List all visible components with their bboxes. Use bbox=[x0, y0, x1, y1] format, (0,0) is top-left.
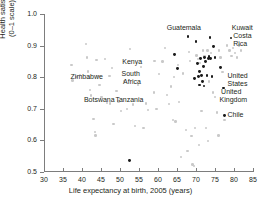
data-point bbox=[132, 103, 134, 105]
y-axis-title-line1: Health satisfaction bbox=[0, 0, 7, 56]
x-tick-mark bbox=[139, 168, 140, 172]
y-tick-label: 0.7 bbox=[19, 105, 37, 113]
data-point bbox=[195, 54, 197, 56]
x-tick-mark bbox=[234, 168, 235, 172]
country-label-rica: Rica bbox=[233, 40, 247, 48]
x-tick-mark bbox=[253, 168, 254, 172]
y-axis-title: Health satisfaction (0–1 scale), 2006 bbox=[0, 0, 16, 56]
country-label-united: United bbox=[228, 72, 248, 80]
y-tick-mark bbox=[40, 14, 44, 15]
data-point bbox=[209, 57, 212, 60]
data-point bbox=[153, 60, 155, 62]
data-point bbox=[153, 91, 155, 93]
x-tick-mark bbox=[82, 168, 83, 172]
data-point bbox=[201, 80, 204, 83]
data-point bbox=[145, 102, 147, 104]
country-label-chile: Chile bbox=[228, 111, 244, 119]
data-point bbox=[126, 108, 128, 110]
data-point bbox=[147, 109, 149, 111]
data-point bbox=[212, 91, 214, 93]
x-tick-label: 85 bbox=[241, 176, 261, 184]
data-point bbox=[173, 53, 176, 56]
clipped-top-text bbox=[0, 0, 261, 9]
y-tick-label: 1.0 bbox=[19, 10, 37, 18]
data-point bbox=[115, 90, 117, 92]
x-tick-mark bbox=[196, 168, 197, 172]
country-label-zimbabwe: Zimbabwe bbox=[71, 73, 103, 81]
x-tick-mark bbox=[158, 168, 159, 172]
data-point bbox=[161, 60, 163, 62]
x-tick-mark bbox=[101, 168, 102, 172]
y-axis-title-line2: (0–1 scale), 2006 bbox=[7, 0, 16, 56]
plot-area: ZimbabweBotswanaKenyaSouthAfricaTanzania… bbox=[44, 14, 253, 172]
data-point bbox=[182, 72, 184, 74]
data-point bbox=[170, 85, 172, 87]
data-point bbox=[230, 55, 232, 57]
data-point bbox=[95, 59, 97, 61]
x-tick-mark bbox=[44, 168, 45, 172]
data-point bbox=[142, 127, 144, 129]
country-label-tanzania: Tanzania bbox=[115, 96, 143, 104]
scatter-plot-figure: ZimbabweBotswanaKenyaSouthAfricaTanzania… bbox=[0, 0, 261, 200]
data-point bbox=[202, 49, 204, 51]
x-tick-mark bbox=[63, 168, 64, 172]
country-label-united: United bbox=[221, 88, 241, 96]
data-point bbox=[199, 57, 202, 60]
data-point bbox=[94, 134, 96, 136]
data-point bbox=[164, 47, 166, 49]
data-point bbox=[128, 159, 131, 162]
country-label-kuwait: Kuwait bbox=[232, 24, 253, 32]
country-label-states: States bbox=[228, 80, 248, 88]
data-point bbox=[219, 56, 221, 58]
data-point bbox=[217, 134, 219, 136]
data-point bbox=[174, 120, 176, 122]
country-label-guatemala: Guatemala bbox=[154, 24, 214, 32]
data-point bbox=[218, 49, 220, 51]
data-point bbox=[187, 35, 190, 38]
data-point bbox=[185, 129, 187, 131]
data-point bbox=[236, 56, 238, 58]
country-label-costa: Costa bbox=[233, 32, 251, 40]
y-tick-label: 0.9 bbox=[19, 42, 37, 50]
y-tick-mark bbox=[40, 46, 44, 47]
y-tick-mark bbox=[40, 109, 44, 110]
y-tick-label: 0.8 bbox=[19, 73, 37, 81]
data-point bbox=[240, 49, 242, 51]
country-label-kingdom: Kingdom bbox=[220, 96, 248, 104]
data-point bbox=[166, 94, 168, 96]
country-label-africa: Africa bbox=[123, 78, 141, 86]
data-point bbox=[176, 67, 179, 70]
data-point bbox=[212, 45, 215, 48]
country-label-botswana: Botswana bbox=[84, 96, 115, 104]
data-point bbox=[193, 165, 195, 167]
data-point bbox=[234, 52, 236, 54]
y-tick-label: 0.5 bbox=[19, 168, 37, 176]
data-point bbox=[98, 84, 100, 86]
data-point bbox=[194, 127, 196, 129]
data-point bbox=[86, 56, 88, 58]
data-point bbox=[196, 62, 199, 65]
x-tick-mark bbox=[120, 168, 121, 172]
x-axis-title: Life expectancy at birth, 2005 (years) bbox=[0, 186, 261, 195]
country-label-south: South bbox=[122, 70, 140, 78]
y-tick-mark bbox=[40, 77, 44, 78]
x-tick-mark bbox=[215, 168, 216, 172]
country-label-kenya: Kenya bbox=[122, 58, 142, 66]
data-point bbox=[228, 49, 230, 51]
data-point bbox=[219, 66, 222, 69]
data-point bbox=[155, 108, 157, 110]
x-tick-mark bbox=[177, 168, 178, 172]
data-point bbox=[205, 127, 207, 129]
y-tick-mark bbox=[40, 172, 44, 173]
y-tick-mark bbox=[40, 140, 44, 141]
y-tick-label: 0.6 bbox=[19, 136, 37, 144]
data-point bbox=[200, 110, 202, 112]
data-point bbox=[216, 111, 218, 113]
data-point bbox=[206, 49, 208, 51]
